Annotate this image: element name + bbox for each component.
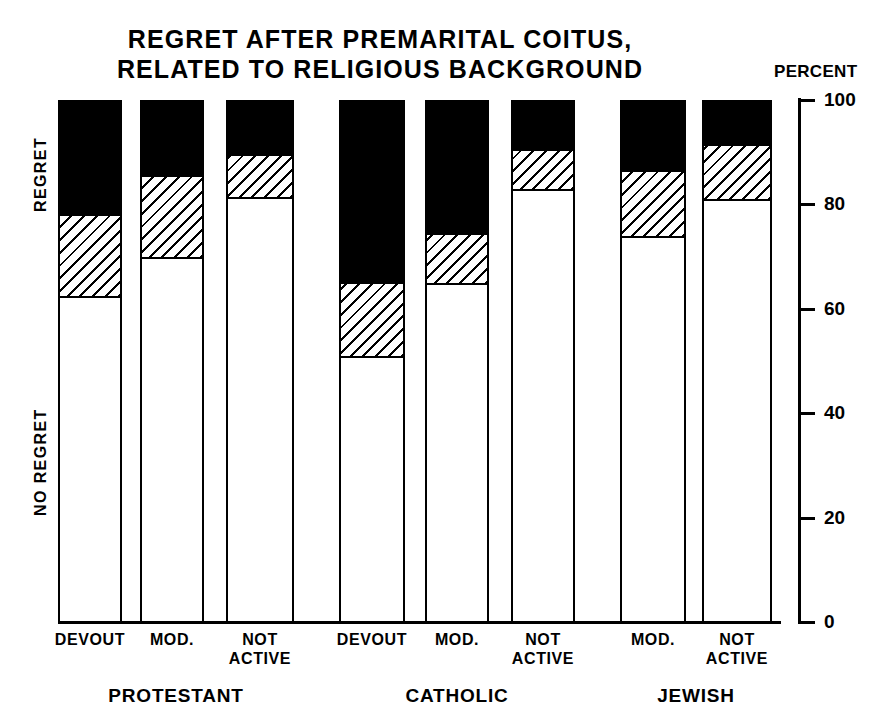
segment-regret-protestant-devout	[60, 102, 120, 214]
y-tick-label-60: 60	[824, 298, 845, 320]
segment-regret-jewish-not-active	[704, 102, 770, 144]
y-tick-label-0: 0	[824, 611, 835, 633]
y-tick-label-40: 40	[824, 402, 845, 424]
y-tick-label-20: 20	[824, 507, 845, 529]
y-tick-40	[798, 412, 815, 415]
bar-jewish-not-active	[702, 100, 772, 622]
segment-some-regret-protestant-mod	[142, 175, 202, 259]
category-label-jewish-mod: MOD.	[606, 630, 700, 649]
group-label-protestant: PROTESTANT	[58, 685, 294, 707]
y-tick-80	[798, 203, 815, 206]
segment-some-regret-catholic-devout	[341, 282, 403, 358]
segment-regret-protestant-mod	[142, 102, 202, 175]
segment-regret-catholic-not-active	[513, 102, 573, 149]
bar-catholic-mod	[425, 100, 489, 622]
y-tick-20	[798, 517, 815, 520]
y-tick-label-100: 100	[824, 89, 856, 111]
category-label-catholic-mod: MOD.	[411, 630, 503, 649]
y-tick-60	[798, 308, 815, 311]
y-tick-100	[798, 99, 815, 102]
y-tick-0	[798, 621, 815, 624]
category-label-word: MOD.	[631, 631, 675, 648]
segment-regret-protestant-not-active	[228, 102, 292, 154]
bar-protestant-mod	[140, 100, 204, 622]
category-label-jewish-not-active: NOTACTIVE	[688, 630, 786, 668]
segment-some-regret-catholic-mod	[427, 233, 487, 285]
category-label-word: ACTIVE	[229, 650, 291, 667]
segment-no-regret-protestant-not-active	[228, 199, 292, 624]
x-axis-baseline	[58, 621, 781, 624]
chart-root: REGRET AFTER PREMARITAL COITUS, RELATED …	[0, 0, 879, 726]
category-label-word: MOD.	[150, 631, 194, 648]
bar-protestant-not-active	[226, 100, 294, 622]
segment-no-regret-catholic-not-active	[513, 191, 573, 624]
category-label-word: MOD.	[435, 631, 479, 648]
category-label-word: DEVOUT	[55, 631, 125, 648]
category-label-protestant-not-active: NOTACTIVE	[212, 630, 308, 668]
category-label-catholic-not-active: NOTACTIVE	[497, 630, 589, 668]
segment-some-regret-jewish-not-active	[704, 144, 770, 201]
category-label-protestant-mod: MOD.	[126, 630, 218, 649]
bar-jewish-mod	[620, 100, 686, 622]
category-label-protestant-devout: DEVOUT	[44, 630, 136, 649]
category-label-word: NOT	[242, 631, 278, 648]
segment-regret-catholic-devout	[341, 102, 403, 282]
category-label-catholic-devout: DEVOUT	[325, 630, 419, 649]
y-tick-label-80: 80	[824, 193, 845, 215]
segment-some-regret-protestant-devout	[60, 214, 120, 298]
segment-regret-jewish-mod	[622, 102, 684, 170]
category-label-word: DEVOUT	[337, 631, 407, 648]
segment-regret-catholic-mod	[427, 102, 487, 233]
group-label-catholic: CATHOLIC	[339, 685, 575, 707]
plot-area: DEVOUTMOD.NOTACTIVEDEVOUTMOD.NOTACTIVEMO…	[0, 0, 879, 726]
segment-no-regret-catholic-devout	[341, 358, 403, 624]
segment-some-regret-catholic-not-active	[513, 149, 573, 191]
bar-protestant-devout	[58, 100, 122, 622]
category-label-word: ACTIVE	[706, 650, 768, 667]
category-label-word: NOT	[525, 631, 561, 648]
y-axis-spine	[798, 98, 801, 624]
segment-some-regret-protestant-not-active	[228, 154, 292, 198]
segment-no-regret-catholic-mod	[427, 285, 487, 624]
segment-no-regret-jewish-mod	[622, 238, 684, 624]
segment-no-regret-protestant-devout	[60, 298, 120, 624]
segment-no-regret-protestant-mod	[142, 259, 202, 624]
segment-some-regret-jewish-mod	[622, 170, 684, 238]
segment-no-regret-jewish-not-active	[704, 201, 770, 624]
bar-catholic-not-active	[511, 100, 575, 622]
group-label-jewish: JEWISH	[620, 685, 772, 707]
category-label-word: ACTIVE	[512, 650, 574, 667]
category-label-word: NOT	[719, 631, 755, 648]
bar-catholic-devout	[339, 100, 405, 622]
